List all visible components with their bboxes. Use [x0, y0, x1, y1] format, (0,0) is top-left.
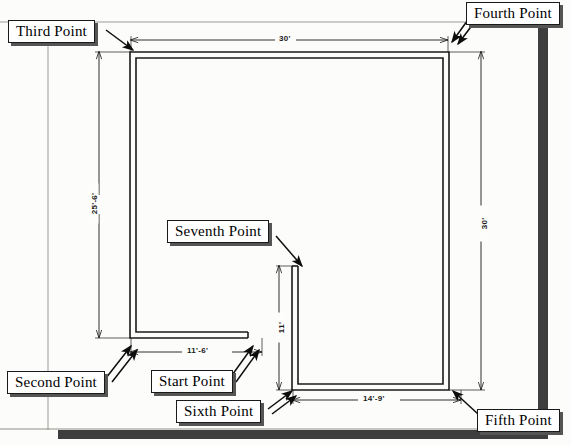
dimension-line-left-25-6 — [95, 52, 130, 338]
dimension-label-right-height: 30' — [480, 206, 489, 242]
floor-plan-diagram: Third Point Fourth Point Seventh Point S… — [0, 0, 571, 446]
dimension-label-left-height: 25'-6' — [90, 184, 99, 224]
callout-fifth-point[interactable]: Fifth Point — [477, 409, 560, 432]
leader-sixth-b — [272, 396, 296, 414]
callout-fourth-point[interactable]: Fourth Point — [466, 2, 560, 25]
callout-third-point[interactable]: Third Point — [8, 20, 95, 43]
leader-fifth — [453, 391, 478, 414]
callout-second-point[interactable]: Second Point — [7, 371, 105, 394]
dimension-label-inner-height: 11' — [277, 313, 286, 343]
dimension-label-bottom-right: 14'-9' — [361, 394, 387, 403]
callout-start-point[interactable]: Start Point — [151, 370, 233, 393]
leader-seventh — [276, 236, 302, 266]
dimension-label-bottom-left: 11'-6' — [185, 346, 210, 355]
callout-sixth-point[interactable]: Sixth Point — [176, 400, 261, 423]
leader-sixth-a — [268, 391, 292, 409]
callout-seventh-point[interactable]: Seventh Point — [167, 220, 269, 243]
dimension-label-top-width: 30' — [277, 34, 293, 43]
leader-third — [106, 30, 133, 50]
